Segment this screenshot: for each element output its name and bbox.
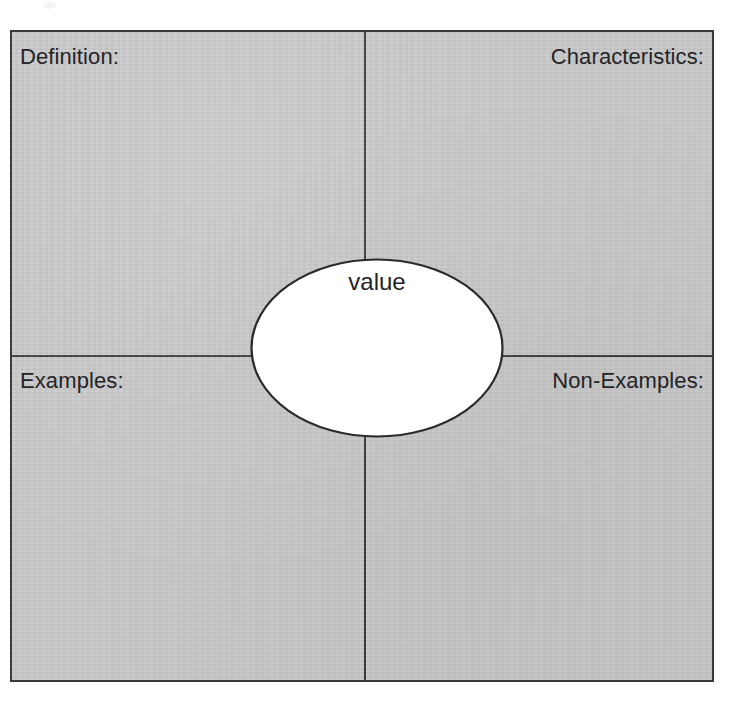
ellipse-shape: [252, 260, 503, 437]
worksheet-page: Definition: Characteristics: Examples: N…: [0, 0, 747, 713]
frayer-model-frame: Definition: Characteristics: Examples: N…: [10, 30, 714, 682]
scan-artifact-speck: [44, 2, 56, 9]
quadrant-label-examples: Examples:: [20, 368, 124, 394]
center-term-ellipse[interactable]: value: [250, 258, 504, 438]
quadrant-label-characteristics: Characteristics:: [551, 44, 704, 70]
quadrant-label-definition: Definition:: [20, 44, 119, 70]
quadrant-label-non-examples: Non-Examples:: [552, 368, 704, 394]
